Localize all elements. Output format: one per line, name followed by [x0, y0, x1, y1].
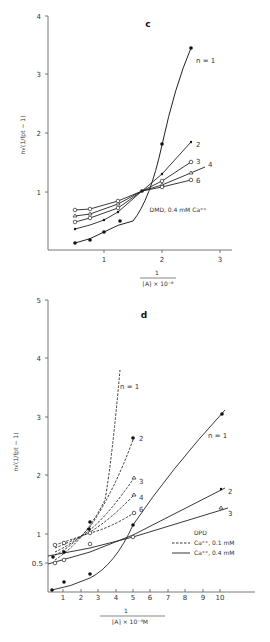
x-axis-label-denominator: [A] × 10⁻⁴M [112, 618, 148, 625]
curve-d-dashed-n1 [55, 370, 120, 560]
x-tick-label: 5 [131, 594, 135, 602]
y-tick-label: 3 [37, 71, 41, 79]
x-tick-label: 8 [183, 594, 187, 602]
curve-label-c-n4: 4 [208, 161, 213, 169]
curve-label-d-dashed-4: 4 [139, 494, 144, 502]
y-tick-label: 4 [37, 13, 42, 21]
curve-d-dashed-2 [55, 437, 134, 555]
panel-c: 4 3 2 1 1 2 3 1 [A] × 10⁻⁸ n√(1/fpt − 1)… [19, 13, 232, 287]
x-tick-label: 2 [160, 256, 164, 264]
y-tick-label: 2 [37, 130, 41, 138]
panel-d: 5 4 3 2 1 0.5 1 2 3 4 5 6 7 8 9 10 1 [A]… [12, 297, 255, 625]
y-tick-label: 2 [37, 472, 41, 480]
x-tick-label: 3 [218, 256, 222, 264]
y-ticks-d [45, 300, 48, 563]
curve-label-d-solid-n1: n = 1 [208, 432, 227, 440]
curve-label-c-n6: 6 [196, 177, 201, 185]
dashed-curves [55, 370, 134, 560]
figure-canvas: 4 3 2 1 1 2 3 1 [A] × 10⁻⁸ n√(1/fpt − 1)… [0, 0, 270, 642]
solid-curves [48, 410, 228, 590]
curve-label-d-dashed-6: 6 [139, 506, 144, 514]
x-tick-label: 1 [61, 594, 65, 602]
panel-label-c: c [145, 19, 150, 29]
x-tick-label: 7 [166, 594, 170, 602]
y-axis-label: n√(1/fpt − 1) [19, 115, 27, 154]
panel-label-d: d [141, 310, 147, 320]
legend-d: DPD Ca⁺⁺, 0.1 mM Ca⁺⁺, 0.4 mM [172, 529, 235, 556]
legend-title: DPD [194, 529, 207, 536]
curve-label-d-dashed-3: 3 [139, 478, 143, 486]
curve-label-d-solid-3: 3 [228, 510, 232, 518]
y-tick-label: 4 [37, 355, 42, 363]
curve-c-n2 [75, 142, 191, 229]
y-tick-label: 0.5 [32, 560, 43, 568]
x-ticks-d [63, 589, 220, 592]
y-tick-label: 1 [37, 189, 41, 197]
curve-label-c-n1: n = 1 [196, 57, 215, 65]
y-tick-label: 1 [37, 531, 41, 539]
curve-label-c-n2: 2 [196, 141, 200, 149]
y-tick-label: 3 [37, 414, 41, 422]
x-tick-label: 4 [114, 594, 119, 602]
x-ticks-c [104, 250, 220, 253]
x-axis-label-numerator: 1 [124, 607, 128, 614]
x-tick-label: 3 [96, 594, 100, 602]
curve-label-d-solid-2: 2 [228, 488, 232, 496]
y-axis-label: n√(1/fpt − 1) [12, 432, 20, 471]
curve-label-c-n3: 3 [196, 158, 200, 166]
legend-dashed-label: Ca⁺⁺, 0.1 mM [194, 539, 235, 546]
x-axis-label-numerator: 1 [155, 269, 159, 276]
legend-solid-label: Ca⁺⁺, 0.4 mM [194, 549, 235, 556]
x-tick-label: 6 [148, 594, 153, 602]
x-tick-label: 2 [79, 594, 83, 602]
x-tick-label: 1 [102, 256, 106, 264]
x-tick-label: 10 [216, 594, 225, 602]
x-tick-label: 9 [201, 594, 205, 602]
y-tick-label: 5 [37, 297, 41, 305]
curve-label-d-dashed-n1: n = 1 [120, 383, 139, 391]
annotation-c: DMD, 0.4 mM Ca⁺⁺ [150, 206, 207, 213]
y-ticks-c [45, 16, 48, 192]
curve-c-n1 [75, 48, 191, 243]
x-axis-label-denominator: [A] × 10⁻⁸ [143, 280, 174, 287]
curve-label-d-dashed-2: 2 [139, 435, 143, 443]
